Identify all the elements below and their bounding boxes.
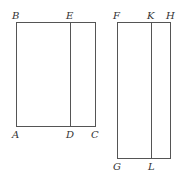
label-a: A	[11, 129, 19, 140]
label-e: E	[65, 10, 74, 21]
label-c: C	[91, 129, 99, 140]
label-k: K	[146, 10, 155, 21]
rectangle-abcd: B E A D C	[11, 10, 99, 140]
label-l: L	[147, 161, 155, 172]
rectangle-fgh: F K H G L	[112, 10, 175, 172]
label-d: D	[65, 129, 74, 140]
label-f: F	[112, 10, 121, 21]
label-b: B	[11, 10, 19, 21]
rectangle-abc-outline	[17, 23, 96, 127]
label-h: H	[165, 10, 175, 21]
geometry-diagram: B E A D C F K H G L	[0, 0, 185, 181]
rectangle-fgh-outline	[118, 23, 171, 159]
label-g: G	[113, 161, 121, 172]
